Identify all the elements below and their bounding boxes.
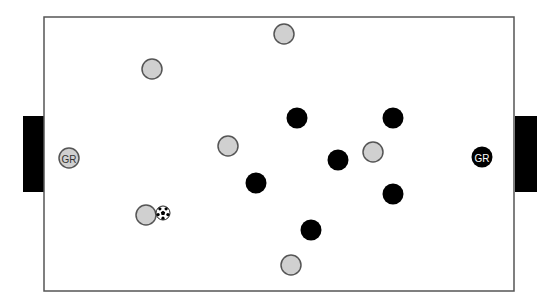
light-team-player-5: [136, 205, 156, 225]
light-team-player-6: [281, 255, 301, 275]
dark-team-player-1: [287, 108, 308, 129]
dark-team-player-4: [246, 173, 267, 194]
light-team-player-4: [363, 142, 383, 162]
futsal-pitch-diagram: GRGR: [0, 0, 559, 304]
dark-team-player-2: [383, 108, 404, 129]
dark-team-player-6: [301, 220, 322, 241]
dark-team-player-5: [383, 184, 404, 205]
field-boundary: [44, 17, 514, 291]
light-team-player-3: [218, 136, 238, 156]
soccer-ball-icon: [156, 206, 170, 220]
light-goalkeeper-label: GR: [62, 154, 77, 165]
goal-left: [23, 116, 44, 192]
dark-goalkeeper-label: GR: [475, 153, 490, 164]
dark-team-player-3: [328, 150, 349, 171]
light-team-player-1: [274, 24, 294, 44]
light-team-player-2: [142, 59, 162, 79]
goal-right: [515, 116, 537, 192]
